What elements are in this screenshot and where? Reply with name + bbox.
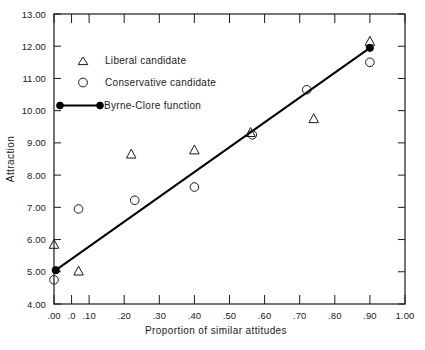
x-axis-title: Proportion of similar attitudes bbox=[145, 325, 287, 336]
triangle-open-icon bbox=[78, 57, 88, 65]
x-tick-label: 1.00 bbox=[396, 310, 415, 321]
y-tick-label: 5.00 bbox=[27, 266, 46, 277]
chart-container: 4.005.006.007.008.009.0010.0011.0012.001… bbox=[0, 0, 425, 350]
x-tick-label: .20 bbox=[117, 310, 131, 321]
legend-entry-liberal: Liberal candidate bbox=[78, 55, 186, 66]
y-tick-label: 8.00 bbox=[27, 170, 46, 181]
legend-entry-conservative: Conservative candidate bbox=[79, 77, 217, 88]
legend-entry-byrne-clore: Byrne-Clore function bbox=[57, 100, 202, 111]
x-tick-label: .00 bbox=[47, 310, 61, 321]
x-tick-label: .40 bbox=[188, 310, 202, 321]
circle-open-icon bbox=[79, 78, 88, 87]
x-tick-label: .0 bbox=[67, 310, 75, 321]
x-tick-label: .50 bbox=[223, 310, 237, 321]
x-tick-label: .80 bbox=[328, 310, 342, 321]
data-point-liberal bbox=[309, 114, 319, 123]
x-tick-label: .90 bbox=[363, 310, 377, 321]
data-point-liberal bbox=[74, 266, 84, 275]
y-axis-tick-labels: 4.005.006.007.008.009.0010.0011.0012.001… bbox=[22, 9, 46, 310]
line-filled-dot-icon bbox=[57, 102, 104, 109]
y-tick-label: 12.00 bbox=[22, 41, 46, 52]
x-tick-label: .60 bbox=[258, 310, 272, 321]
x-tick-label: .30 bbox=[153, 310, 167, 321]
x-tick-label: .10 bbox=[82, 310, 96, 321]
y-axis-title: Attraction bbox=[5, 136, 16, 182]
data-point-conservative bbox=[190, 183, 199, 192]
y-tick-label: 13.00 bbox=[22, 9, 46, 20]
data-point-liberal bbox=[126, 149, 136, 158]
legend-label-liberal: Liberal candidate bbox=[105, 55, 186, 66]
data-point-byrne-clore bbox=[366, 44, 373, 51]
data-point-conservative bbox=[74, 205, 83, 214]
chart-legend: Liberal candidate Conservative candidate… bbox=[57, 55, 217, 111]
y-tick-label: 10.00 bbox=[22, 105, 46, 116]
y-tick-label: 6.00 bbox=[27, 234, 46, 245]
scatter-chart: 4.005.006.007.008.009.0010.0011.0012.001… bbox=[0, 0, 425, 350]
data-point-byrne-clore bbox=[52, 267, 59, 274]
data-point-conservative bbox=[130, 196, 139, 205]
data-point-conservative bbox=[366, 58, 375, 67]
y-tick-label: 7.00 bbox=[27, 202, 46, 213]
legend-label-conservative: Conservative candidate bbox=[105, 77, 216, 88]
legend-label-byrne-clore: Byrne-Clore function bbox=[104, 100, 201, 111]
y-tick-label: 11.00 bbox=[22, 73, 46, 84]
x-tick-label: .70 bbox=[293, 310, 307, 321]
data-point-liberal bbox=[190, 145, 200, 154]
x-axis-tick-labels: .00.0.10.20.30.40.50.60.70.80.901.00 bbox=[47, 310, 414, 321]
y-tick-label: 4.00 bbox=[27, 299, 46, 310]
y-tick-label: 9.00 bbox=[27, 137, 46, 148]
series-conservative-candidate bbox=[50, 58, 375, 284]
